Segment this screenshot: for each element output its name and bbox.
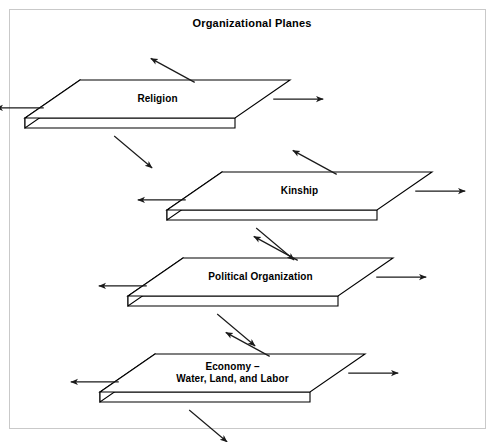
plane-front-face-religion	[25, 118, 235, 128]
plane-label-kinship: Kinship	[281, 185, 318, 197]
planes-layer	[25, 80, 432, 402]
plane-front-face-kinship	[167, 210, 377, 220]
arrow-up-left-kinship	[293, 150, 337, 174]
plane-label-religion: Religion	[137, 93, 177, 105]
plane-label-economy: Economy – Water, Land, and Labor	[176, 361, 288, 385]
plane-front-face-political-organization	[128, 296, 338, 306]
plane-label-political-organization: Political Organization	[208, 271, 312, 283]
arrow-down-right-political-organization	[217, 314, 255, 346]
plane-front-face-economy	[100, 392, 310, 402]
arrow-up-left-economy	[226, 332, 270, 356]
figure-root: Organizational Planes ReligionKinshipPol…	[0, 0, 504, 442]
arrow-down-right-religion	[114, 136, 152, 168]
arrow-up-left-political-organization	[254, 236, 298, 260]
arrow-down-right-economy	[189, 410, 227, 442]
arrow-up-left-religion	[151, 58, 195, 82]
